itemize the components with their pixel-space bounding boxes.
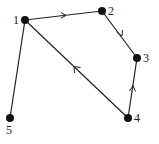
node-label-3: 3 [143, 51, 149, 65]
nodes [6, 7, 141, 122]
node-3 [133, 54, 141, 62]
edge-4-3 [128, 58, 137, 118]
node-2 [98, 7, 106, 15]
edges [10, 11, 137, 118]
graph-canvas: 1 2 3 4 5 [0, 0, 159, 144]
edge-1-5 [10, 20, 25, 118]
edge-1-2 [25, 11, 102, 20]
node-label-4: 4 [134, 111, 140, 125]
node-4 [124, 114, 132, 122]
node-label-2: 2 [108, 4, 114, 18]
node-1 [21, 16, 29, 24]
edge-4-1 [25, 20, 128, 118]
node-5 [6, 114, 14, 122]
node-label-1: 1 [13, 13, 19, 27]
node-label-5: 5 [6, 123, 12, 137]
